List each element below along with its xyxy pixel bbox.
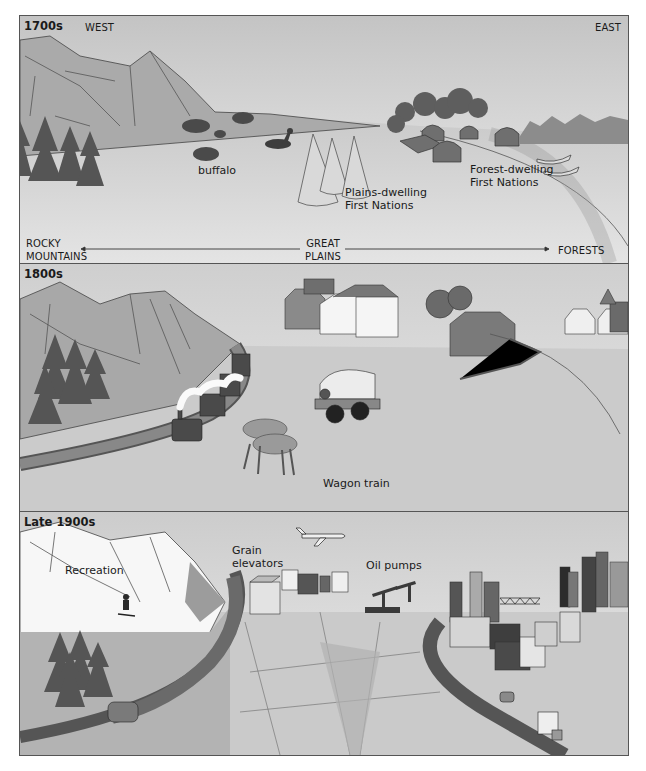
recreation-label: Recreation <box>65 564 124 577</box>
buffalo-label: buffalo <box>198 164 236 177</box>
era-label: 1800s <box>24 267 63 281</box>
scene-1800s <box>20 264 628 511</box>
grain-elevators <box>250 576 280 614</box>
compass-east: EAST <box>595 21 621 34</box>
panel-1800s: 1800s Wagon train <box>20 264 628 512</box>
panel-late-1900s: Late 1900s Recreation Grain elevators Oi… <box>20 512 628 755</box>
illustration-frame: 1700s WEST EAST buffalo Plains-dwelling … <box>19 15 629 756</box>
oil-pumps-label: Oil pumps <box>366 559 422 572</box>
axis-right-label: FORESTS <box>558 244 604 257</box>
plains-people-label: Plains-dwelling First Nations <box>345 186 427 212</box>
panel-1700s: 1700s WEST EAST buffalo Plains-dwelling … <box>20 16 628 264</box>
grain-elevators-label: Grain elevators <box>232 544 283 570</box>
wagon-train-label: Wagon train <box>323 477 390 490</box>
scene-1700s <box>20 16 628 263</box>
axis-center-label: GREAT PLAINS <box>305 237 341 263</box>
era-label: 1700s <box>24 19 63 33</box>
axis-left-label: ROCKY MOUNTAINS <box>26 237 87 263</box>
compass-west: WEST <box>85 21 114 34</box>
car <box>500 692 514 702</box>
scene-late-1900s <box>20 512 628 755</box>
forest-people-label: Forest-dwelling First Nations <box>470 163 554 189</box>
era-label: Late 1900s <box>24 515 95 529</box>
